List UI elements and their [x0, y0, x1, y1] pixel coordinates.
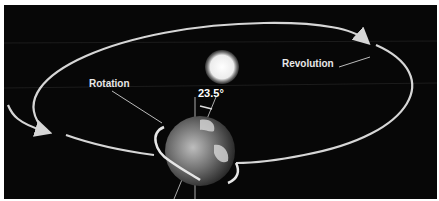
- revolution-label: Revolution: [282, 58, 334, 69]
- rotation-label: Rotation: [89, 78, 130, 89]
- diagram-svg: [4, 5, 437, 199]
- orbit-arrow-left: [8, 105, 44, 131]
- diagram-canvas: Rotation Revolution 23.5°: [4, 5, 437, 199]
- tilt-arc-arrow: [200, 106, 212, 109]
- revolution-leader-line: [339, 57, 370, 67]
- axial-tilt-label: 23.5°: [198, 87, 224, 99]
- orbit-path-lower: [66, 135, 154, 155]
- sun: [205, 50, 239, 84]
- rotation-leader-line: [112, 91, 162, 123]
- orbit-path-upper: [34, 23, 364, 125]
